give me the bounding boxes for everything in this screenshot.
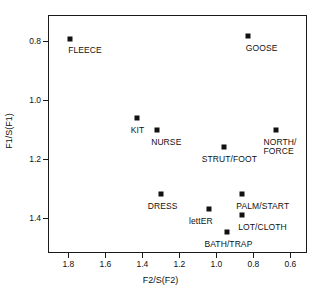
x-tick-label: 1.0 (210, 259, 222, 269)
data-point-marker[interactable] (158, 192, 163, 197)
data-point-marker[interactable] (221, 145, 226, 150)
x-tick-mark (105, 253, 106, 258)
data-point-label: lettER (189, 217, 213, 227)
y-tick-mark (43, 218, 48, 219)
scatter-plot-figure: 1.81.61.41.21.00.80.6 0.81.01.21.4 FLEEC… (0, 0, 321, 301)
x-tick-mark (290, 253, 291, 258)
data-point-label: STRUT/FOOT (202, 155, 257, 165)
data-point-marker[interactable] (134, 115, 139, 120)
y-tick-label: 1.4 (22, 213, 41, 223)
y-tick-label: 1.2 (22, 154, 41, 164)
data-point-marker[interactable] (68, 36, 73, 41)
x-tick-label: 1.6 (99, 259, 111, 269)
data-point-label: DRESS (148, 202, 178, 212)
data-point-label: FLEECE (68, 46, 102, 56)
data-point-marker[interactable] (225, 230, 230, 235)
data-point-marker[interactable] (273, 127, 278, 132)
y-axis-label: F1/S(F1) (4, 101, 14, 161)
data-point-label: KIT (131, 126, 145, 136)
x-tick-label: 1.8 (62, 259, 74, 269)
y-tick-mark (43, 159, 48, 160)
data-point-marker[interactable] (240, 192, 245, 197)
x-tick-mark (253, 253, 254, 258)
x-tick-label: 0.6 (284, 259, 296, 269)
data-point-marker[interactable] (245, 33, 250, 38)
y-tick-mark (43, 100, 48, 101)
data-point-label: NURSE (151, 138, 181, 148)
data-point-label: GOOSE (246, 44, 278, 54)
data-point-marker[interactable] (206, 206, 211, 211)
y-tick-mark (43, 41, 48, 42)
data-point-marker[interactable] (155, 127, 160, 132)
y-tick-label: 1.0 (22, 95, 41, 105)
data-point-marker[interactable] (240, 212, 245, 217)
x-axis-label: F2/S(F2) (0, 275, 321, 285)
y-tick-label: 0.8 (22, 36, 41, 46)
x-tick-label: 0.8 (247, 259, 259, 269)
data-point-label: LOT/CLOTH (238, 223, 287, 233)
x-tick-mark (68, 253, 69, 258)
data-point-label: PALM/START (236, 202, 289, 212)
x-tick-label: 1.2 (173, 259, 185, 269)
x-tick-mark (142, 253, 143, 258)
data-point-label: BATH/TRAP (204, 240, 252, 250)
x-tick-label: 1.4 (136, 259, 148, 269)
x-tick-mark (179, 253, 180, 258)
x-tick-mark (216, 253, 217, 258)
data-point-label: NORTH/ FORCE (264, 138, 297, 157)
